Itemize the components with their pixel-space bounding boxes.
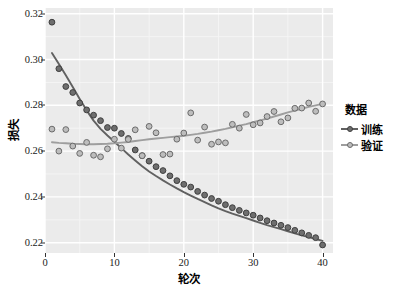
data-point (264, 114, 270, 120)
data-point (153, 164, 159, 170)
legend-label-train: 训练 (361, 121, 383, 137)
data-point (223, 140, 229, 146)
data-point (209, 141, 215, 147)
data-point (49, 19, 55, 25)
y-tick-label: 0.22 (3, 237, 43, 248)
data-point (236, 125, 242, 131)
grid-major (45, 8, 333, 253)
data-point (139, 153, 145, 159)
data-point (160, 152, 166, 158)
grid-minor (45, 8, 333, 253)
data-point (271, 220, 277, 226)
y-tick-label: 0.28 (3, 100, 43, 111)
data-point (320, 101, 326, 107)
data-point (250, 212, 256, 218)
data-point (250, 122, 256, 128)
legend-key-validation-icon (341, 138, 358, 152)
legend-item-validation[interactable]: 验证 (341, 137, 398, 153)
data-point (320, 242, 326, 248)
y-tick-label: 0.32 (3, 8, 43, 19)
data-point (105, 125, 111, 131)
plot-canvas (45, 8, 333, 253)
x-tick-mark (184, 253, 185, 257)
x-tick-mark (114, 253, 115, 257)
data-point (257, 215, 263, 221)
data-point (112, 125, 118, 131)
data-point (98, 154, 104, 160)
trend-line-train (52, 53, 323, 241)
data-point (181, 181, 187, 187)
data-point (125, 137, 131, 143)
data-point (216, 198, 222, 204)
data-point (195, 189, 201, 195)
x-tick-label: 30 (233, 258, 273, 269)
data-point (77, 151, 83, 157)
data-point (306, 232, 312, 238)
data-point (63, 127, 69, 133)
data-point (181, 130, 187, 136)
data-point (285, 115, 291, 121)
data-point (91, 152, 97, 158)
scatter-series-train (49, 19, 325, 248)
x-tick-mark (253, 253, 254, 257)
data-point (202, 192, 208, 198)
data-point (167, 173, 173, 179)
x-tick-label: 20 (164, 258, 204, 269)
data-point (118, 145, 124, 151)
data-point (223, 202, 229, 208)
data-point (188, 184, 194, 190)
data-point (299, 105, 305, 111)
x-tick-label: 0 (25, 258, 65, 269)
y-tick-label: 0.30 (3, 54, 43, 65)
data-point (146, 123, 152, 129)
data-point (132, 147, 138, 153)
data-point (112, 136, 118, 142)
x-tick-mark (323, 253, 324, 257)
legend-title: 数据 (345, 101, 398, 117)
data-point (174, 178, 180, 184)
loss-curve-chart: 损失 0.220.240.260.280.300.32 010203040 轮次… (0, 0, 400, 293)
data-point (202, 124, 208, 130)
data-point (70, 90, 76, 96)
data-point (70, 143, 76, 149)
x-tick-label: 40 (303, 258, 343, 269)
data-point (271, 109, 277, 115)
legend-key-train-icon (341, 122, 358, 136)
data-point (98, 118, 104, 124)
data-point (243, 210, 249, 216)
data-point (49, 126, 55, 132)
data-point (153, 130, 159, 136)
data-point (292, 227, 298, 233)
data-point (313, 235, 319, 241)
data-point (229, 121, 235, 127)
x-axis-title: 轮次 (45, 270, 333, 286)
x-tick-label: 10 (94, 258, 134, 269)
data-point (292, 105, 298, 111)
data-point (278, 222, 284, 228)
data-point (285, 225, 291, 231)
data-point (56, 66, 62, 72)
data-point (195, 137, 201, 143)
data-point (188, 110, 194, 116)
data-point (236, 208, 242, 214)
data-point (257, 120, 263, 126)
data-point (105, 146, 111, 152)
data-point (209, 196, 215, 202)
x-tick-mark (45, 253, 46, 257)
data-point (264, 218, 270, 224)
data-point (84, 140, 90, 146)
legend-item-train[interactable]: 训练 (341, 121, 398, 137)
plot-panel (45, 8, 333, 253)
data-point (91, 112, 97, 118)
data-point (160, 168, 166, 174)
data-point (306, 100, 312, 106)
data-point (63, 84, 69, 90)
y-axis-title: 损失 (5, 119, 21, 141)
data-point (132, 127, 138, 133)
data-point (229, 205, 235, 211)
data-point (56, 148, 62, 154)
data-point (243, 112, 249, 118)
data-point (146, 158, 152, 164)
y-tick-label: 0.26 (3, 146, 43, 157)
data-point (278, 119, 284, 125)
